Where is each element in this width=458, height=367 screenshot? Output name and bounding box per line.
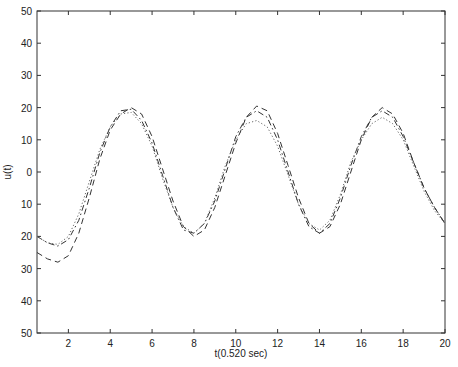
y-axis-label: u(t) [2, 165, 13, 180]
y-tick-label: 50 [21, 6, 33, 17]
y-tick-label: 0 [26, 167, 32, 178]
y-tick-label: 10 [21, 199, 33, 210]
y-tick-label: 40 [21, 38, 33, 49]
y-tick-label: 50 [21, 328, 33, 339]
y-tick-label: 30 [21, 264, 33, 275]
data-series [37, 106, 445, 262]
x-axis-label: t(0.520 sec) [215, 348, 268, 359]
x-tick-label: 2 [66, 338, 72, 349]
y-axis-ticks: 504030201001020304050 [21, 6, 445, 339]
x-axis-ticks: 2468101214161820 [66, 11, 451, 349]
x-tick-label: 14 [314, 338, 326, 349]
y-tick-label: 20 [21, 103, 33, 114]
y-tick-label: 20 [21, 231, 33, 242]
line-chart: 2468101214161820 504030201001020304050 t… [0, 0, 458, 367]
series-dashed-line [37, 106, 445, 262]
x-tick-label: 20 [439, 338, 451, 349]
x-tick-label: 4 [107, 338, 113, 349]
y-tick-label: 30 [21, 70, 33, 81]
x-tick-label: 12 [272, 338, 284, 349]
y-tick-label: 10 [21, 135, 33, 146]
x-tick-label: 16 [356, 338, 368, 349]
y-tick-label: 40 [21, 296, 33, 307]
series-dotted-line [37, 112, 445, 244]
x-tick-label: 18 [398, 338, 410, 349]
plot-frame [37, 11, 445, 333]
x-tick-label: 6 [149, 338, 155, 349]
x-tick-label: 8 [191, 338, 197, 349]
